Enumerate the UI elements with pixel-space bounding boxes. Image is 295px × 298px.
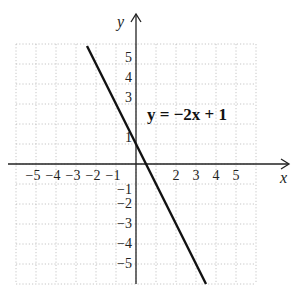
y-tick-label: −3 [117, 216, 132, 231]
x-tick-label: 2 [173, 168, 180, 183]
x-tick-label: −4 [46, 168, 61, 183]
y-tick-label: 5 [125, 50, 132, 65]
y-tick-label: 3 [125, 90, 132, 105]
x-tick-label: −5 [26, 168, 41, 183]
x-tick-label: 3 [193, 168, 200, 183]
x-tick-label: 4 [213, 168, 220, 183]
x-tick-label: −1 [106, 168, 121, 183]
data-line [87, 46, 206, 284]
x-axis-label: x [279, 169, 287, 186]
y-tick-label: −4 [117, 236, 132, 251]
x-tick-label: 5 [233, 168, 240, 183]
tick-labels: −5−4−3−2−123455431−1−2−3−4−5 [26, 50, 240, 271]
y-tick-label: −5 [117, 256, 132, 271]
equation-label: y = −2x + 1 [147, 105, 227, 124]
y-axis-label: y [115, 13, 125, 31]
x-tick-label: −2 [86, 168, 101, 183]
y-tick-label: −2 [117, 196, 132, 211]
line-graph: x y −5−4−3−2−123455431−1−2−3−4−5 y = −2x… [0, 0, 295, 298]
y-tick-label: −1 [117, 182, 132, 197]
axes: x y [8, 13, 289, 284]
y-tick-label: 4 [125, 70, 132, 85]
x-tick-label: −3 [66, 168, 81, 183]
